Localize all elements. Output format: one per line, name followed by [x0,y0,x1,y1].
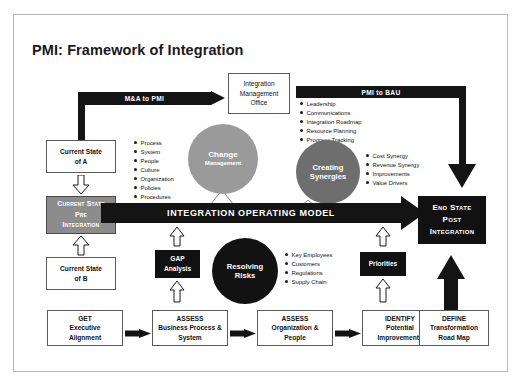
resolving-risks-line1: Resolving [227,262,263,271]
end-state-line3: Integration [430,226,475,238]
process-step-box[interactable]: GET Executive Alignment [47,310,123,346]
page-title: PMI: Framework of Integration [32,42,244,58]
pmi-to-bau-bar: PMI to BAU [296,86,466,98]
pmi-to-bau-label: PMI to BAU [362,89,401,96]
bullet-dot-icon [285,253,288,256]
arrow-b-to-pre-icon [72,236,90,256]
end-state-post-integration-box[interactable]: End State Post Integration [418,196,486,244]
process-arrow-2 [230,324,256,333]
bullet-item: Resource Planning [300,127,430,136]
current-state-b-line1: Current State [60,264,102,274]
bullet-dot-icon [300,102,303,105]
arrow-gap-to-iom-icon [169,227,185,247]
process-step-box[interactable]: ASSESS Business Process & System [152,310,228,346]
ma-to-pmi-arrowhead [211,91,225,105]
process-step-line1: Business Process & [158,323,221,333]
creating-synergies-circle[interactable]: Creating Synergies [296,140,360,204]
process-step-line2: People [284,333,306,343]
arrow-identify-to-priorities-icon [375,279,391,303]
process-step-line1: Potential [386,323,414,333]
bullet-dot-icon [134,186,137,189]
bullet-dot-icon [300,129,303,132]
bullet-dot-icon [366,163,369,166]
bullet-dot-icon [134,177,137,180]
gap-analysis-line1: GAP [170,254,184,264]
bullet-dot-icon [366,181,369,184]
pmi-to-bau-bullets: Leadership Communications Integration Ro… [300,100,430,145]
process-step-verb: GET [78,314,92,324]
integration-operating-model-label: INTEGRATION OPERATING MODEL [167,208,335,218]
pmi-to-bau-descender [459,86,466,165]
bullet-dot-icon [134,159,137,162]
process-step-box[interactable]: DEFINE Transformation Road Map [419,310,489,346]
ma-to-pmi-bar: M&A to PMI [78,92,211,105]
bullet-dot-icon [366,172,369,175]
bullet-dot-icon [285,262,288,265]
bullet-dot-icon [300,138,303,141]
ma-to-pmi-label: M&A to PMI [125,95,164,102]
current-state-b-box[interactable]: Current State of B [46,257,116,290]
process-step-line2: Improvements [377,333,422,343]
integration-management-office-box[interactable]: Integration Management Office [228,73,290,114]
end-state-line2: Post [443,214,462,226]
bullet-dot-icon [134,168,137,171]
imo-line3: Office [250,98,267,108]
resolving-risks-circle[interactable]: Resolving Risks [212,238,278,304]
process-step-line2: Alignment [69,333,101,343]
diagram-canvas: PMI: Framework of Integration M&A to PMI… [0,0,522,390]
bullet-item: Value Drivers [366,179,456,188]
process-arrow-3 [335,324,361,333]
process-step-line1: Transformation [430,323,478,333]
process-arrow-1 [125,324,151,333]
process-step-verb: ASSESS [177,314,204,324]
bullet-item: Cost Synergy [366,152,456,161]
cs-pre-line1: Current State [57,199,104,210]
resolving-risks-line2: Risks [235,271,255,280]
current-state-a-line2: of A [75,157,88,167]
creating-synergies-line1: Creating [313,163,344,172]
bullet-dot-icon [134,150,137,153]
imo-line2: Management [240,89,279,99]
process-step-line1: Organization & [272,323,319,333]
bullet-item: Improvements [366,170,456,179]
bullet-item: Supply Chain [285,278,380,287]
bullet-dot-icon [285,271,288,274]
arrow-priorities-to-iom-icon [375,227,391,247]
cs-pre-line3: Integration [63,220,100,231]
bullet-item: Leadership [300,100,430,109]
bullet-dot-icon [300,111,303,114]
gap-analysis-line2: Analysis [164,264,191,274]
priorities-box[interactable]: Priorities [360,252,406,276]
bullet-dot-icon [285,280,288,283]
synergies-bullets: Cost Synergy Revenue Synergy Improvement… [366,152,456,188]
priorities-label: Priorities [369,259,398,269]
arrow-assess-to-gap-icon [169,281,185,303]
bullet-item: Revenue Synergy [366,161,456,170]
creating-synergies-line2: Synergies [310,172,346,181]
arrow-a-to-pre-icon [72,175,90,195]
end-state-up-arrowhead [437,255,465,279]
process-step-box[interactable]: ASSESS Organization & People [257,310,333,346]
imo-line1: Integration [243,79,274,89]
current-state-b-line2: of B [75,274,88,284]
process-step-verb: DEFINE [442,314,466,324]
change-management-circle[interactable]: Change Management [188,124,258,194]
bullet-dot-icon [300,120,303,123]
process-step-line2: Road Map [438,333,470,343]
process-step-verb: IDENTIFY [385,314,415,324]
bullet-item: Integration Roadmap [300,118,430,127]
process-step-line2: System [178,333,201,343]
integration-operating-model-bar: INTEGRATION OPERATING MODEL [101,203,401,223]
current-state-a-box[interactable]: Current State of A [46,140,116,173]
process-step-verb: ASSESS [282,314,309,324]
gap-analysis-box[interactable]: GAP Analysis [155,250,200,278]
process-step-line1: Executive [70,323,101,333]
bullet-item: Communications [300,109,430,118]
change-management-title: Change [208,151,237,160]
bullet-dot-icon [134,141,137,144]
change-management-subtitle: Management [205,160,242,167]
end-state-line1: End State [432,202,471,214]
cs-pre-line2: Pre [75,210,87,221]
current-state-a-line1: Current State [60,147,102,157]
bullet-dot-icon [134,195,137,198]
